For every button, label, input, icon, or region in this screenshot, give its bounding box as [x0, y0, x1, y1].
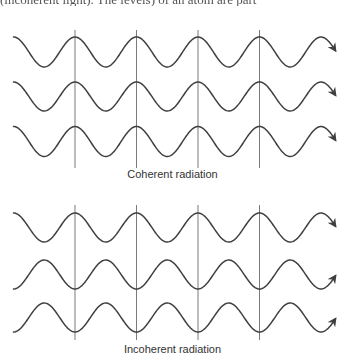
- wave-3: [14, 303, 336, 332]
- wave-1: [14, 213, 336, 242]
- radiation-diagram: [0, 0, 345, 362]
- wave-2: [14, 82, 336, 111]
- wave-2: [14, 260, 336, 289]
- wave-3: [14, 127, 336, 157]
- coherent-radiation-caption: Coherent radiation: [0, 168, 345, 180]
- wave-1: [14, 37, 336, 67]
- incoherent-radiation-panel: [14, 205, 336, 340]
- coherent-radiation-panel: [14, 30, 336, 168]
- incoherent-radiation-caption: Incoherent radiation: [0, 343, 345, 355]
